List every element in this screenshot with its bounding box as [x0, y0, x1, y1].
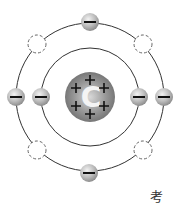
electron-outer-left [7, 88, 25, 106]
empty-slot [134, 141, 152, 159]
nucleus-symbol: C [81, 81, 102, 114]
electron-outer-top [81, 13, 99, 31]
empty-slot [134, 35, 152, 53]
atom-diagram: C [0, 0, 178, 206]
empty-slot [28, 141, 46, 159]
electron-inner-right [130, 88, 148, 106]
nucleus: C [65, 72, 115, 122]
empty-slot [28, 35, 46, 53]
electron-outer-bottom [80, 164, 98, 182]
watermark: 考 [150, 186, 163, 205]
electron-outer-right [155, 88, 173, 106]
electron-inner-left [32, 88, 50, 106]
